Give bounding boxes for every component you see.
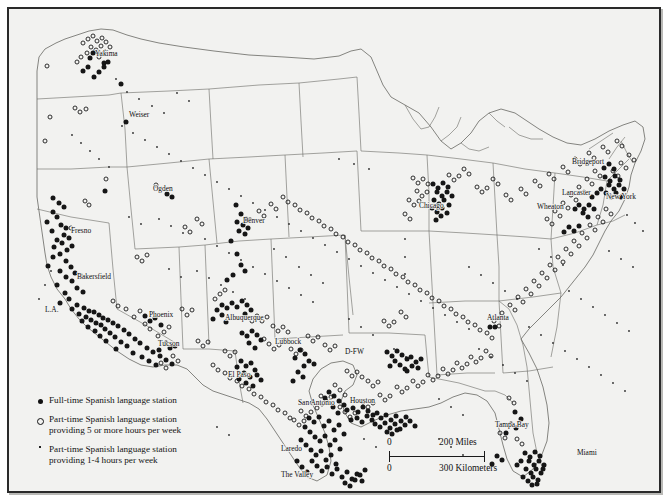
city-label: Fresno [71,226,91,235]
city-label: Chicago [419,201,444,210]
city-label: Yakima [95,49,118,58]
city-label: Bakersfield [77,272,111,281]
scale-miles-label: 200 Miles [439,437,477,447]
city-label: The Valley [281,470,313,479]
city-label: Laredo [281,444,302,453]
city-label: L.A. [45,305,59,314]
legend: Full-time Spanish language station Part-… [31,395,281,473]
scale-km-row: 0 300 Kilometers [387,463,567,476]
legend-open-circle-icon [31,414,49,426]
city-label: Miami [577,448,597,457]
city-label: Tucson [158,339,180,348]
scale-bar-cap-right [484,451,485,462]
scale-miles-row: 0 200 Miles [387,437,567,450]
city-label: Tampa Bay [495,420,529,429]
legend-item-part-time-1to4: Part-time Spanish language station provi… [31,444,281,466]
legend-label-part5-line2: providing 5 or more hours per week [49,425,281,436]
city-label: El Paso [228,370,251,379]
city-label: Wheaton [537,202,564,211]
legend-filled-dot-icon [31,395,49,407]
scale-miles-zero: 0 [387,437,392,447]
map-frame: YakimaWeiserOgdenDenverFresnoBakersfield… [7,7,661,493]
city-label: San Antonio [298,398,335,407]
scale-km-label: 300 Kilometers [439,463,497,473]
legend-label-part1-line2: providing 1-4 hours per week [49,455,281,466]
legend-label-part5-line1: Part-time Spanish language station [49,414,281,425]
scale-bar: 0 200 Miles 0 300 Kilometers [387,437,567,476]
city-label: Atlanta [487,313,509,322]
city-label: D-FW [345,347,364,356]
city-label: Lancaster [562,188,591,197]
city-label: Houston [350,396,375,405]
city-label: Lubbock [275,337,302,346]
map-page: YakimaWeiserOgdenDenverFresnoBakersfield… [0,0,668,500]
city-label: Albuquerque [225,313,264,322]
scale-km-zero: 0 [387,463,392,473]
scale-bar-line [389,456,485,457]
city-label: Phoenix [149,310,174,319]
legend-label-full-time-line1: Full-time Spanish language station [49,395,281,406]
legend-label-part1-line1: Part-time Spanish language station [49,444,281,455]
legend-item-full-time: Full-time Spanish language station [31,395,281,407]
city-label: Ogden [153,184,173,193]
city-label: Denver [243,216,265,225]
city-label: Weiser [129,110,150,119]
city-label: Bridgeport [572,157,605,166]
scale-bar-graphic [389,451,485,462]
scale-bar-cap-left [389,451,390,462]
legend-item-part-time-5plus: Part-time Spanish language station provi… [31,414,281,436]
legend-small-dot-icon [31,444,49,456]
city-label: New York [606,192,636,201]
